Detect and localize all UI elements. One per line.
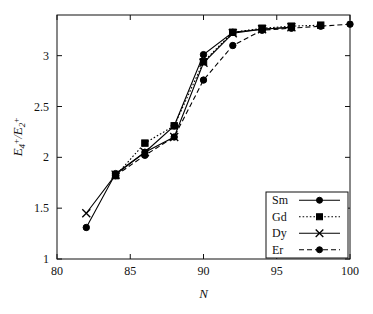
data-point-marker [142, 140, 148, 146]
x-axis-tick-labels: 80859095100 [51, 264, 359, 278]
y-axis-title-text: E4+/E2+ [10, 118, 27, 158]
data-point-marker [318, 23, 324, 29]
data-point-marker [171, 134, 177, 140]
data-point-marker [230, 42, 236, 48]
data-point-marker [200, 77, 206, 83]
y-tick-label: 1.5 [34, 201, 49, 215]
legend-item-label: Gd [272, 210, 287, 224]
series-sm [83, 24, 294, 231]
data-point-marker [288, 25, 294, 31]
data-point-marker [200, 51, 206, 57]
data-point-marker [112, 172, 118, 178]
series-line-dy [86, 27, 291, 213]
y-axis-title: E4+/E2+ [10, 118, 27, 158]
y-tick-label: 1 [43, 252, 49, 266]
data-point-marker [259, 27, 265, 33]
series-line-sm [86, 27, 291, 227]
x-tick-label: 80 [51, 264, 63, 278]
chart-figure: 80859095100 11.522.53 N E4+/E2+ SmGdDyEr [0, 0, 373, 314]
series-dy [82, 23, 295, 217]
data-point-marker [317, 197, 323, 203]
y-tick-label: 3 [43, 49, 49, 63]
data-point-marker [317, 214, 323, 220]
legend-item-label: Sm [272, 193, 289, 207]
data-point-marker [171, 123, 177, 129]
x-tick-label: 100 [341, 264, 359, 278]
series-er [112, 21, 353, 179]
x-axis-title-text: N [198, 286, 209, 301]
legend-item-label: Er [272, 243, 283, 257]
y-tick-label: 2 [43, 150, 49, 164]
data-point-marker [317, 247, 323, 253]
chart-legend: SmGdDyEr [266, 192, 348, 258]
data-point-marker [347, 21, 353, 27]
data-point-marker [142, 152, 148, 158]
x-axis-title: N [198, 286, 209, 301]
legend-item-label: Dy [272, 226, 287, 240]
x-tick-label: 95 [271, 264, 283, 278]
y-axis-tick-labels: 11.522.53 [34, 49, 49, 266]
y-tick-label: 2.5 [34, 100, 49, 114]
data-point-marker [83, 224, 89, 230]
chart-canvas: 80859095100 11.522.53 N E4+/E2+ SmGdDyEr [0, 0, 373, 314]
data-point-marker [82, 209, 90, 217]
x-tick-label: 90 [198, 264, 210, 278]
x-tick-label: 85 [124, 264, 136, 278]
data-point-marker [230, 29, 236, 35]
